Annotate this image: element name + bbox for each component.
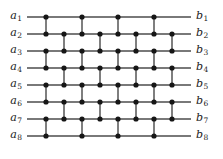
input-label-index-4: 4 — [17, 65, 22, 74]
input-label-base-8: a — [10, 128, 17, 141]
node-c1-r5 — [43, 82, 48, 87]
input-label-3: a3 — [0, 44, 22, 57]
output-label-8: b8 — [196, 129, 208, 142]
node-c1-r4 — [43, 65, 48, 70]
node-c4-r6 — [97, 99, 102, 104]
output-label-index-4: 4 — [203, 65, 208, 74]
node-c4-r3 — [97, 48, 102, 53]
node-c5-r7 — [115, 116, 120, 121]
input-label-1: a1 — [0, 10, 22, 23]
output-label-7: b7 — [196, 112, 208, 125]
node-c6-r7 — [133, 116, 138, 121]
output-label-base-8: b — [196, 128, 203, 141]
node-c2-r7 — [61, 116, 66, 121]
node-c7-r8 — [151, 133, 156, 138]
input-label-base-3: a — [10, 43, 17, 56]
output-label-5: b5 — [196, 78, 208, 91]
node-c7-r6 — [151, 99, 156, 104]
output-label-1: b1 — [196, 10, 208, 23]
network-canvas — [0, 0, 223, 159]
node-c3-r1 — [79, 14, 84, 19]
node-c3-r6 — [79, 99, 84, 104]
output-label-base-4: b — [196, 60, 203, 73]
node-c2-r5 — [61, 82, 66, 87]
node-c7-r1 — [151, 14, 156, 19]
node-c5-r1 — [115, 14, 120, 19]
input-label-index-3: 3 — [17, 48, 22, 57]
node-c4-r5 — [97, 82, 102, 87]
output-label-index-2: 2 — [203, 31, 208, 40]
node-c2-r6 — [61, 99, 66, 104]
comparator-network-figure: a1a2a3a4a5a6a7a8 b1b2b3b4b5b6b7b8 — [0, 0, 223, 159]
input-label-index-1: 1 — [17, 14, 22, 23]
node-c5-r6 — [115, 99, 120, 104]
output-label-4: b4 — [196, 61, 208, 74]
output-label-3: b3 — [196, 44, 208, 57]
output-label-base-1: b — [196, 9, 203, 22]
node-c3-r8 — [79, 133, 84, 138]
node-c2-r3 — [61, 48, 66, 53]
output-label-index-8: 8 — [203, 133, 208, 142]
output-label-index-5: 5 — [203, 82, 208, 91]
node-c3-r2 — [79, 31, 84, 36]
node-c7-r2 — [151, 31, 156, 36]
input-label-5: a5 — [0, 78, 22, 91]
input-label-base-4: a — [10, 60, 17, 73]
node-c8-r7 — [169, 116, 174, 121]
output-label-index-7: 7 — [203, 116, 208, 125]
output-label-index-6: 6 — [203, 99, 208, 108]
node-c8-r5 — [169, 82, 174, 87]
input-label-base-5: a — [10, 77, 17, 90]
node-c5-r4 — [115, 65, 120, 70]
node-c5-r5 — [115, 82, 120, 87]
node-c5-r8 — [115, 133, 120, 138]
node-c5-r3 — [115, 48, 120, 53]
input-label-index-6: 6 — [17, 99, 22, 108]
node-c7-r3 — [151, 48, 156, 53]
node-c6-r2 — [133, 31, 138, 36]
node-c3-r3 — [79, 48, 84, 53]
node-c7-r4 — [151, 65, 156, 70]
node-c8-r6 — [169, 99, 174, 104]
input-label-6: a6 — [0, 95, 22, 108]
node-c5-r2 — [115, 31, 120, 36]
output-label-base-3: b — [196, 43, 203, 56]
input-label-index-2: 2 — [17, 31, 22, 40]
input-label-base-7: a — [10, 111, 17, 124]
input-label-4: a4 — [0, 61, 22, 74]
input-label-8: a8 — [0, 129, 22, 142]
node-c3-r4 — [79, 65, 84, 70]
node-c1-r1 — [43, 14, 48, 19]
node-c1-r8 — [43, 133, 48, 138]
node-c1-r2 — [43, 31, 48, 36]
input-label-base-1: a — [10, 9, 17, 22]
input-label-index-7: 7 — [17, 116, 22, 125]
output-label-index-3: 3 — [203, 48, 208, 57]
input-label-2: a2 — [0, 27, 22, 40]
node-c4-r4 — [97, 65, 102, 70]
node-c2-r2 — [61, 31, 66, 36]
output-label-2: b2 — [196, 27, 208, 40]
input-label-index-8: 8 — [17, 133, 22, 142]
node-c3-r5 — [79, 82, 84, 87]
node-c4-r2 — [97, 31, 102, 36]
node-c6-r5 — [133, 82, 138, 87]
node-c7-r5 — [151, 82, 156, 87]
node-c8-r2 — [169, 31, 174, 36]
output-label-base-5: b — [196, 77, 203, 90]
input-label-base-2: a — [10, 26, 17, 39]
node-c6-r3 — [133, 48, 138, 53]
node-c4-r7 — [97, 116, 102, 121]
node-c3-r7 — [79, 116, 84, 121]
node-c1-r6 — [43, 99, 48, 104]
node-c8-r4 — [169, 65, 174, 70]
node-c8-r3 — [169, 48, 174, 53]
node-c7-r7 — [151, 116, 156, 121]
output-label-index-1: 1 — [203, 14, 208, 23]
node-c1-r3 — [43, 48, 48, 53]
output-label-base-7: b — [196, 111, 203, 124]
output-label-base-2: b — [196, 26, 203, 39]
output-label-6: b6 — [196, 95, 208, 108]
node-c2-r4 — [61, 65, 66, 70]
node-c1-r7 — [43, 116, 48, 121]
